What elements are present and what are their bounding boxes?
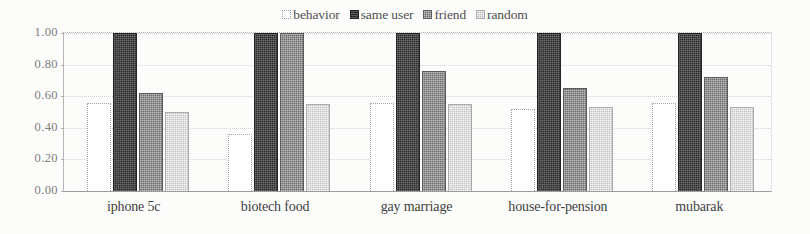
y-axis-tick — [61, 96, 64, 97]
legend-entry-random: random — [476, 6, 528, 23]
bar-friend-house-for-pension — [563, 88, 587, 191]
bar-friend-iphone-5c — [139, 93, 163, 191]
y-axis-tick-label: 0.20 — [14, 152, 58, 164]
bar-same-user-biotech-food — [254, 33, 278, 191]
bar-random-iphone-5c — [165, 112, 189, 191]
legend-swatch-icon — [350, 10, 359, 19]
x-axis-category-label: biotech food — [204, 198, 345, 215]
bar-behavior-gay-marriage — [370, 103, 394, 191]
bar-chart-figure: behaviorsame userfriendrandom 1.000.800.… — [0, 0, 810, 234]
x-axis-category-label: mubarak — [629, 198, 770, 215]
bar-behavior-iphone-5c — [87, 103, 111, 191]
legend-label: friend — [434, 7, 466, 22]
x-axis-category-label: gay marriage — [346, 198, 487, 215]
y-axis-tick-label: 0.40 — [14, 121, 58, 133]
plot-area — [63, 32, 772, 192]
y-axis-tick — [61, 65, 64, 66]
bar-same-user-mubarak — [678, 33, 702, 191]
legend-swatch-icon — [282, 10, 291, 19]
y-axis-tick — [61, 191, 64, 192]
bar-behavior-biotech-food — [228, 134, 252, 191]
legend-entry-behavior: behavior — [282, 6, 339, 23]
bar-friend-gay-marriage — [422, 71, 446, 191]
y-axis-tick-label: 0.60 — [14, 89, 58, 101]
bar-behavior-mubarak — [652, 103, 676, 191]
bar-random-mubarak — [730, 107, 754, 191]
bar-random-gay-marriage — [448, 104, 472, 191]
bar-random-house-for-pension — [589, 107, 613, 191]
y-axis-tick — [61, 128, 64, 129]
bar-random-biotech-food — [306, 104, 330, 191]
bar-same-user-gay-marriage — [396, 33, 420, 191]
legend-label: behavior — [293, 7, 339, 22]
x-axis-category-label: iphone 5c — [63, 198, 204, 215]
legend-label: same user — [361, 7, 414, 22]
x-axis-category-label: house-for-pension — [487, 198, 628, 215]
bar-behavior-house-for-pension — [511, 109, 535, 191]
legend-entry-friend: friend — [423, 6, 466, 23]
y-axis-tick-label: 0.00 — [14, 184, 58, 196]
bar-same-user-house-for-pension — [537, 33, 561, 191]
y-axis-tick — [61, 159, 64, 160]
bar-friend-mubarak — [704, 77, 728, 191]
legend-label: random — [487, 7, 528, 22]
legend-entry-same-user: same user — [350, 6, 414, 23]
legend-swatch-icon — [423, 10, 432, 19]
chart-legend: behaviorsame userfriendrandom — [0, 6, 810, 23]
y-axis-tick — [61, 33, 64, 34]
y-axis-tick-label: 0.80 — [14, 58, 58, 70]
legend-swatch-icon — [476, 10, 485, 19]
bar-same-user-iphone-5c — [113, 33, 137, 191]
bar-friend-biotech-food — [280, 33, 304, 191]
y-axis-tick-label: 1.00 — [14, 26, 58, 38]
